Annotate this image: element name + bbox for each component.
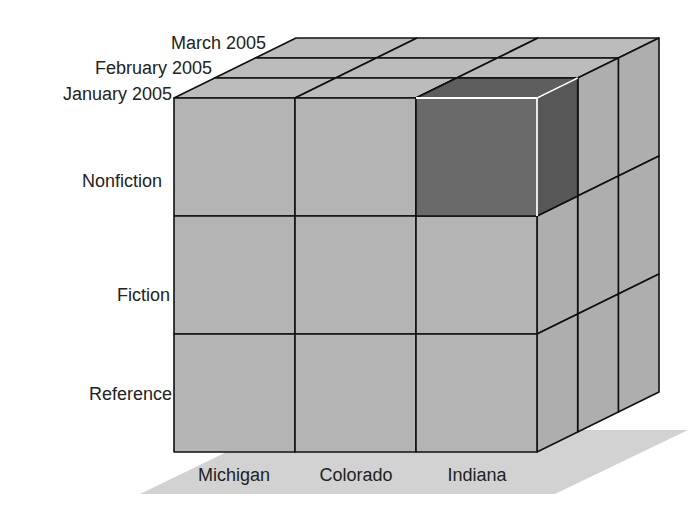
front-cell [295,98,416,216]
row-label-fiction: Fiction [10,286,170,304]
depth-label-march: March 2005 [46,34,266,52]
front-cell [174,216,295,334]
depth-label-february: February 2005 [0,59,212,77]
column-label-indiana: Indiana [417,466,537,484]
side-cell [578,294,619,432]
column-label-michigan: Michigan [174,466,294,484]
front-cell [174,98,295,216]
front-cell [295,334,416,452]
side-cell [618,38,659,176]
highlight-cell-front [416,98,537,216]
column-label-colorado: Colorado [296,466,416,484]
data-cube-diagram: gory ... (cropped caption text) March 20… [0,0,690,521]
side-cell [537,196,578,334]
side-cell [618,274,659,412]
depth-label-january: January 2005 [0,85,172,103]
row-label-nonfiction: Nonfiction [2,172,162,190]
highlight-cell-side [537,78,578,216]
side-cell [578,58,619,196]
side-cell [537,314,578,452]
front-cell [416,334,537,452]
front-cell [174,334,295,452]
cube-graphic [0,0,690,521]
front-cell [295,216,416,334]
front-cell [416,216,537,334]
side-cell [578,176,619,314]
side-cell [618,156,659,294]
row-label-reference: Reference [12,385,172,403]
